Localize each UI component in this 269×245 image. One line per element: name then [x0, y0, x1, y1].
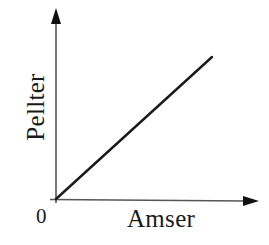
origin-label: 0	[36, 204, 47, 229]
x-axis-arrow-icon	[243, 196, 259, 206]
x-axis	[50, 200, 246, 202]
y-axis-label: Pellter	[22, 73, 50, 140]
y-axis-arrow-icon	[51, 8, 61, 24]
data-line	[56, 57, 212, 199]
x-axis-label: Amser	[127, 205, 195, 233]
